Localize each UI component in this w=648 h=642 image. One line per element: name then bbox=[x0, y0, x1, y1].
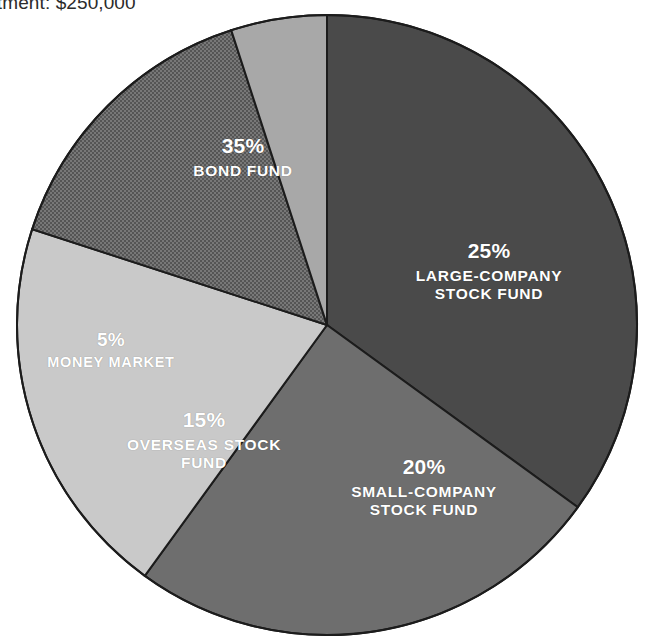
pie-label-bond-fund-percent: 35% bbox=[193, 134, 292, 159]
pie-label-money-market-percent: 5% bbox=[47, 329, 174, 351]
pie-label-overseas-percent: 15% bbox=[127, 408, 281, 433]
pie-label-line: FUND bbox=[127, 454, 281, 472]
pie-label-money-market-name: MONEY MARKET bbox=[47, 354, 174, 371]
pie-label-large-company-stock-fund: 25% LARGE-COMPANY STOCK FUND bbox=[416, 239, 563, 303]
pie-label-money-market: 5% MONEY MARKET bbox=[47, 329, 174, 372]
pie-label-line: BOND FUND bbox=[193, 162, 292, 180]
pie-graphic bbox=[0, 0, 648, 642]
pie-label-bond-fund-name: BOND FUND bbox=[193, 162, 292, 180]
pie-label-small-company-name: SMALL-COMPANY STOCK FUND bbox=[351, 483, 497, 520]
pie-label-large-company-name: LARGE-COMPANY STOCK FUND bbox=[416, 267, 563, 304]
pie-label-line: OVERSEAS STOCK bbox=[127, 436, 281, 454]
pie-label-line: MONEY MARKET bbox=[47, 354, 174, 371]
pie-label-line: STOCK FUND bbox=[351, 501, 497, 519]
pie-label-small-company-stock-fund: 20% SMALL-COMPANY STOCK FUND bbox=[351, 455, 497, 519]
pie-chart: Total investment: $250,000 35% BOND FUND… bbox=[0, 0, 648, 642]
pie-label-overseas-name: OVERSEAS STOCK FUND bbox=[127, 436, 281, 473]
pie-label-large-company-percent: 25% bbox=[416, 239, 563, 264]
pie-label-small-company-percent: 20% bbox=[351, 455, 497, 480]
pie-label-line: STOCK FUND bbox=[416, 285, 563, 303]
pie-label-line: SMALL-COMPANY bbox=[351, 483, 497, 501]
pie-label-line: LARGE-COMPANY bbox=[416, 267, 563, 285]
pie-label-overseas-stock-fund: 15% OVERSEAS STOCK FUND bbox=[127, 408, 281, 472]
pie-label-bond-fund: 35% BOND FUND bbox=[193, 134, 292, 180]
